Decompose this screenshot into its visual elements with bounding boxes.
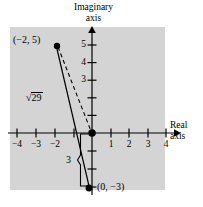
complex-plane-figure: Imaginary axis Real axis 5 4 3 −4 −3 −2 … (0, 0, 203, 207)
point-marker-0--3 (86, 185, 93, 192)
imaginary-axis-arrowhead (88, 26, 96, 33)
point-marker--2-5 (54, 43, 60, 49)
real-axis-title-line1: Real (170, 121, 203, 131)
brace-length-label-3: 3 (66, 155, 71, 165)
tick-label-real-4: 4 (159, 140, 173, 150)
segment-dashed-to-origin (58, 47, 91, 131)
plot-vector-layer (0, 0, 203, 207)
point-marker-origin (88, 129, 96, 137)
tick-label-imag-5: 5 (77, 40, 86, 50)
imaginary-axis-title-line1: Imaginary (62, 3, 125, 13)
tick-label-real--4: −4 (9, 140, 25, 150)
segment-length-label-sqrt29: √29 (26, 92, 43, 103)
tick-label-real--2: −2 (47, 140, 63, 150)
tick-label-imag-4: 4 (77, 58, 86, 68)
segment-solid-sqrt29 (57, 49, 89, 186)
tick-label-real--3: −3 (28, 140, 44, 150)
imaginary-axis-title-line2: axis (62, 14, 125, 24)
real-axis-title-line2: axis (170, 132, 203, 142)
point-label-0--3: (0, −3) (97, 182, 124, 192)
tick-label-real-2: 2 (122, 140, 136, 150)
tick-label-real-1: 1 (104, 140, 118, 150)
radicand-29: 29 (31, 92, 43, 103)
point-label--2-5: (−2, 5) (13, 35, 40, 45)
tick-label-imag-3: 3 (77, 75, 86, 85)
tick-label-real-3: 3 (141, 140, 155, 150)
